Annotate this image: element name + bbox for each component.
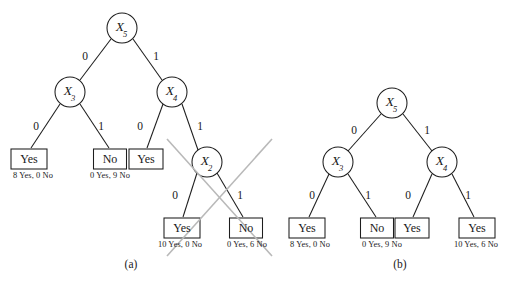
leaf-label-b-3: Yes	[403, 222, 420, 234]
panel-b-caption: (b)	[393, 259, 406, 271]
edge-label-b-1: 1	[424, 125, 430, 137]
edge-label-b-4: 0	[405, 190, 411, 202]
decision-tree-figure: X5 X3 X4 X2 0 1 0 1 0 1 0 1 Yes No Yes Y…	[0, 0, 513, 289]
node-label-b-x3: X3	[332, 154, 345, 170]
panel-b-graphics	[0, 0, 513, 289]
panel-b-leaf-boxes	[289, 218, 495, 238]
leaf-label-b-4: Yes	[468, 222, 485, 234]
edge-label-b-2: 0	[309, 190, 315, 202]
leaf-label-b-2: No	[370, 222, 385, 234]
edge-b-x4-leaf3	[413, 174, 432, 217]
edge-label-b-3: 1	[365, 190, 371, 202]
leaf-stat-b-1: 8 Yes, 0 No	[290, 241, 330, 249]
leaf-label-b-1: Yes	[298, 222, 315, 234]
edge-label-b-5: 1	[465, 190, 471, 202]
leaf-stat-b-4: 10 Yes, 6 No	[454, 241, 498, 249]
node-label-b-x4: X4	[436, 154, 449, 170]
leaf-stat-b-2: 0 Yes, 9 No	[362, 241, 402, 249]
node-label-b-x5: X5	[386, 95, 399, 111]
edge-b-x3-leaf2	[348, 174, 376, 217]
edge-label-b-0: 0	[351, 125, 357, 137]
